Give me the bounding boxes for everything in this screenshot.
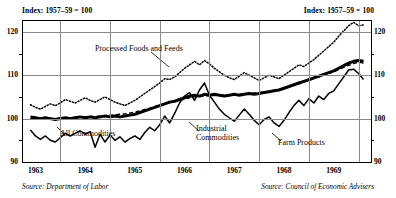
series-label-industrial-commodities-line1: Industrial (196, 124, 227, 133)
series-line-all-commodities (30, 60, 363, 119)
y-axis-minor-tick-left (19, 97, 22, 98)
y-axis-label-left: 120 (0, 27, 18, 36)
gridline-horizontal (23, 119, 371, 120)
gridline-horizontal (23, 32, 371, 33)
y-axis-minor-tick-left (19, 140, 22, 141)
y-axis-minor-tick-left (19, 54, 22, 55)
x-axis-year-label: 1964 (65, 166, 105, 175)
x-axis-year-label: 1966 (165, 166, 205, 175)
y-axis-label-left: 100 (0, 114, 18, 123)
x-axis-year-label: 1969 (314, 166, 354, 175)
source-note-right: Source: Council of Economic Advisers (261, 182, 374, 191)
gridline-vertical (60, 21, 61, 162)
y-axis-label-right: 90 (374, 157, 394, 166)
y-axis-label-right: 100 (374, 114, 394, 123)
gridline-horizontal (23, 75, 371, 76)
x-axis-year-label: 1965 (115, 166, 155, 175)
y-axis-label-right: 110 (374, 70, 394, 79)
y-axis-label-right: 120 (374, 27, 394, 36)
x-axis-year-label: 1967 (214, 166, 254, 175)
y-axis-label-left: 90 (0, 157, 18, 166)
series-label-all-commodities: All Commodities (60, 129, 115, 138)
series-label-industrial-commodities-line2: Commodities (196, 133, 239, 142)
y-axis-minor-tick-right (371, 140, 374, 141)
gridline-vertical (259, 21, 260, 162)
series-label-processed-foods: Processed Foods and Feeds (95, 44, 183, 53)
header-index-left: Index: 1957–59 = 100 (22, 6, 92, 15)
gridline-vertical (110, 21, 111, 162)
y-axis-minor-tick-right (371, 97, 374, 98)
y-axis-label-left: 110 (0, 70, 18, 79)
source-note-left: Source: Department of Labor (22, 182, 108, 191)
series-line-industrial-commodities (30, 62, 363, 118)
gridline-vertical (160, 21, 161, 162)
x-axis-year-label: 1963 (15, 166, 55, 175)
chart-figure: Index: 1957–59 = 100 Index: 1957–59 = 10… (0, 0, 396, 198)
series-label-farm-products: Farm Products (278, 138, 325, 147)
gridline-vertical (359, 21, 360, 162)
y-axis-minor-tick-right (371, 54, 374, 55)
header-index-right: Index: 1957–59 = 100 (304, 6, 374, 15)
x-axis-year-label: 1968 (264, 166, 304, 175)
